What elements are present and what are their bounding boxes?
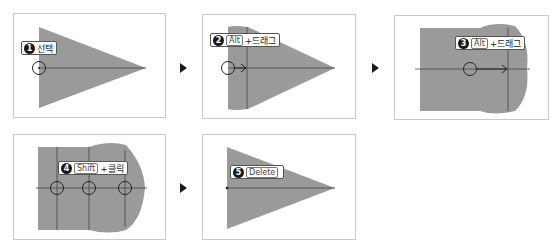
keyboard-key: Delete (246, 167, 278, 178)
step-text: +클릭 (100, 162, 124, 175)
step-4-panel: 4 Shift +클릭 (13, 134, 166, 240)
rounded-shape (395, 16, 550, 121)
step-number-badge: 5 (233, 167, 244, 178)
triangle-shape (14, 14, 167, 119)
keyboard-key: Alt (226, 35, 243, 46)
triangle-shape (203, 135, 357, 241)
step-1-panel: 1 선택 (13, 13, 166, 118)
step-4-label: 4 Shift +클릭 (58, 161, 128, 175)
rounded-shape (14, 135, 167, 241)
step-5-label: 5 Delete (230, 165, 284, 179)
step-3-label: 3 Alt +드래그 (455, 36, 525, 50)
arrow-right-icon (180, 183, 187, 193)
step-3-panel: 3 Alt +드래그 (394, 15, 549, 120)
keyboard-key: Alt (471, 38, 488, 49)
step-5-panel: 5 Delete (202, 134, 356, 240)
step-number-badge: 1 (24, 43, 35, 54)
keyboard-key: Shift (74, 163, 98, 174)
step-number-badge: 2 (213, 35, 224, 46)
arrow-right-icon (372, 63, 379, 73)
triangle-shape (203, 15, 357, 120)
step-2-label: 2 Alt +드래그 (210, 33, 280, 47)
step-text: +드래그 (490, 37, 522, 50)
step-number-badge: 4 (61, 163, 72, 174)
step-2-panel: 2 Alt +드래그 (202, 14, 356, 119)
step-text: 선택 (37, 42, 53, 55)
step-text: +드래그 (245, 34, 277, 47)
arrow-right-icon (180, 63, 187, 73)
step-number-badge: 3 (458, 38, 469, 49)
step-1-label: 1 선택 (21, 41, 57, 55)
